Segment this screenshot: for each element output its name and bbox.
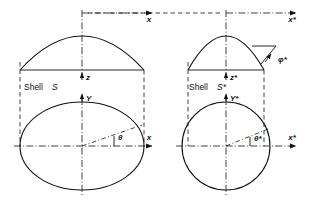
left-elevation-x-axis-label: x: [146, 15, 152, 24]
shell-diagram: x z Shell S Y x θ: [0, 0, 309, 204]
right-elevation-phi-slant: [261, 46, 276, 64]
left-shell-caption-word: Shell: [24, 82, 43, 92]
left-plan-x-axis-label: x: [146, 133, 152, 142]
right-shell-caption-word: Shell: [189, 82, 208, 92]
right-elevation-phi-label: φ*: [278, 55, 288, 64]
right-plan-x-axis-label: x*: [287, 133, 296, 142]
left-plan-radial-line: [82, 125, 142, 146]
diagram-canvas: x z Shell S Y x θ: [0, 0, 309, 204]
right-plan-Y-label: Y*: [230, 94, 239, 103]
right-plan-radial-line: [226, 129, 268, 146]
right-shell-caption-symbol: S*: [217, 82, 227, 92]
left-plan-theta-label: θ: [118, 133, 123, 142]
left-elevation-z-label: z: [85, 73, 90, 82]
right-elevation-z-label: z*: [229, 73, 238, 82]
right-shell-group: x* z* φ* Shell S* Y* x*: [88, 10, 297, 197]
right-plan-theta-label: θ*: [254, 134, 262, 143]
left-shell-caption-symbol: S: [52, 82, 58, 92]
right-elevation-x-axis-label: x*: [287, 15, 296, 24]
left-shell-group: x z Shell S Y x θ: [14, 10, 152, 197]
